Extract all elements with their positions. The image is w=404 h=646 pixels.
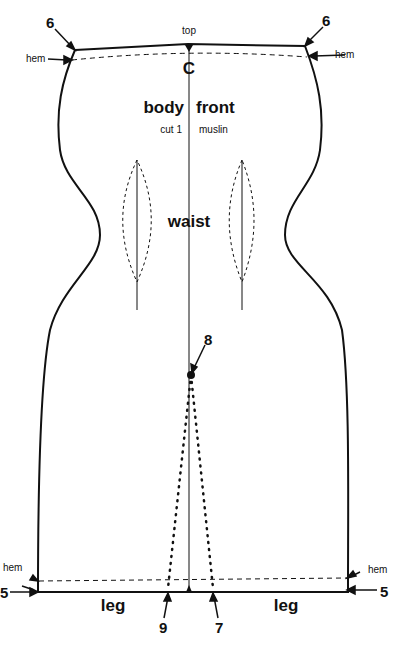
hem-label-bottom-left: hem <box>3 562 22 573</box>
title-left: body <box>143 98 184 117</box>
hem-label-top-left: hem <box>26 53 45 64</box>
point-7: 7 <box>215 619 223 636</box>
leg-label-right: leg <box>274 596 299 615</box>
subtitle-right: muslin <box>199 124 228 135</box>
point-8: 8 <box>204 331 212 348</box>
point-9: 9 <box>159 619 167 636</box>
top-notch <box>185 45 193 52</box>
leg-label-left: leg <box>101 596 126 615</box>
point-6-left: 6 <box>46 14 54 31</box>
point-5-right: 5 <box>380 583 388 600</box>
right-dart <box>229 160 254 310</box>
point-8-dot <box>187 371 195 379</box>
waist-label: waist <box>167 212 211 231</box>
bottom-notch <box>186 585 192 592</box>
subtitle-left: cut 1 <box>160 124 182 135</box>
title-right: front <box>196 98 235 117</box>
point-6-right: 6 <box>322 12 330 29</box>
hem-label-bottom-right: hem <box>368 564 387 575</box>
pattern-outline <box>38 44 348 592</box>
bottom-hem-line <box>39 578 347 581</box>
right-slit-line <box>191 375 213 588</box>
left-dart <box>123 160 152 310</box>
center-mark: C <box>183 59 195 78</box>
sewing-pattern-diagram: top C body front cut 1 muslin waist hem … <box>0 0 404 646</box>
hem-label-top-right: hem <box>335 49 354 60</box>
top-label: top <box>182 25 196 36</box>
point-5-left: 5 <box>0 584 8 601</box>
left-slit-line <box>168 375 191 588</box>
